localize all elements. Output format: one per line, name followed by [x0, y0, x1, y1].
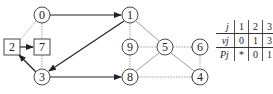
table-cell: 3	[262, 34, 273, 48]
node-9: 9	[122, 39, 138, 55]
table-row-pj: Pj * 0 1 3	[216, 48, 273, 62]
node-4: 4	[192, 69, 196, 85]
edge-0-2	[20, 21, 36, 40]
node-2: 2	[4, 39, 20, 55]
svg-text:5: 5	[162, 40, 168, 54]
nodes: 0 1 2 7 9 5 6 3	[4, 7, 196, 85]
svg-text:0: 0	[39, 8, 45, 22]
table-cell: *	[234, 48, 248, 62]
node-7: 7	[34, 39, 50, 55]
row-header-j: j	[216, 20, 234, 34]
edge-8-5	[136, 53, 159, 71]
svg-text:1: 1	[127, 8, 133, 22]
node-8: 8	[122, 69, 138, 85]
svg-text:8: 8	[127, 70, 133, 84]
table-cell: 1	[248, 34, 262, 48]
row-header-vj: vj	[216, 34, 234, 48]
table-cell: 3	[262, 20, 273, 34]
edge-5-4	[171, 53, 194, 71]
table-row-vj: vj 0 1 3 8	[216, 34, 273, 48]
svg-text:9: 9	[127, 40, 133, 54]
node-5: 5	[157, 39, 173, 55]
svg-text:7: 7	[39, 40, 45, 54]
table-row-j: j 1 2 3 6	[216, 20, 273, 34]
table-cell: 0	[248, 48, 262, 62]
node-1: 1	[122, 7, 138, 23]
distance-table: j 1 2 3 6 vj 0 1 3 8 Pj * 0 1 3	[216, 20, 273, 61]
node-3: 3	[34, 69, 50, 85]
svg-text:2: 2	[9, 40, 15, 54]
table-cell: 0	[234, 34, 248, 48]
node-6: 6	[192, 39, 196, 55]
edge-1-5	[136, 21, 159, 41]
arc-3-2	[19, 55, 36, 72]
svg-text:4: 4	[197, 70, 203, 84]
arc-1-3	[49, 21, 124, 71]
svg-text:3: 3	[39, 70, 45, 84]
table-cell: 1	[262, 48, 273, 62]
svg-text:6: 6	[197, 40, 203, 54]
row-header-pj: Pj	[216, 48, 234, 62]
node-0: 0	[34, 7, 50, 23]
table-cell: 2	[248, 20, 262, 34]
graph-diagram: 0 1 2 7 9 5 6 3	[0, 0, 196, 94]
table-cell: 1	[234, 20, 248, 34]
